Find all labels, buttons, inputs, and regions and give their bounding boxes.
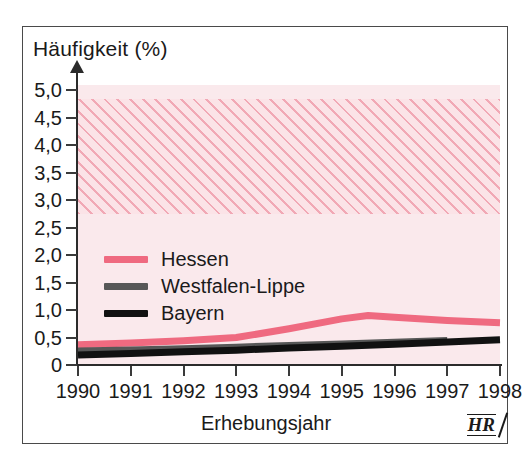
y-axis-title: Häufigkeit (%): [33, 37, 168, 61]
x-axis-tick: [235, 366, 237, 376]
legend-swatch-icon: [104, 283, 148, 290]
y-axis-tick-label: 1,5: [0, 271, 62, 294]
x-axis-tick: [341, 366, 343, 376]
legend-label: Hessen: [161, 248, 229, 271]
y-axis-tick-label: 5,0: [0, 79, 62, 102]
x-axis-tick-label: 1997: [425, 380, 470, 403]
source-logo: HR: [467, 414, 496, 436]
x-axis-tick-label: 1996: [372, 380, 417, 403]
x-axis-tick-label: 1993: [214, 380, 259, 403]
x-axis-tick-label: 1994: [267, 380, 312, 403]
y-axis-tick: [66, 227, 77, 229]
x-axis-tick-label: 1990: [56, 380, 101, 403]
legend-item-hessen: Hessen: [104, 246, 305, 273]
legend-label: Westfalen-Lippe: [161, 275, 305, 298]
legend-item-bayern: Bayern: [104, 300, 305, 327]
x-axis-tick: [394, 366, 396, 376]
x-axis-tick: [288, 366, 290, 376]
y-axis-tick-label: 2,5: [0, 216, 62, 239]
y-axis-tick: [66, 364, 77, 366]
y-axis-tick: [66, 199, 77, 201]
legend-label: Bayern: [161, 302, 224, 325]
y-axis-tick-label: 2,0: [0, 244, 62, 267]
x-axis-tick: [499, 366, 501, 376]
y-axis-tick: [66, 89, 77, 91]
y-axis-line: [76, 68, 78, 366]
y-axis-tick: [66, 172, 77, 174]
y-axis-tick-label: 3,0: [0, 189, 62, 212]
y-axis-tick: [66, 144, 77, 146]
x-axis-tick-label: 1992: [161, 380, 206, 403]
y-axis-tick: [66, 282, 77, 284]
y-axis-tick: [66, 337, 77, 339]
y-axis-tick-label: 0,5: [0, 326, 62, 349]
y-axis-arrow-icon: [70, 60, 84, 73]
x-axis-tick: [130, 366, 132, 376]
y-axis-tick: [66, 117, 77, 119]
x-axis-tick-label: 1995: [320, 380, 365, 403]
y-axis-tick-label: 0: [0, 354, 62, 377]
x-axis-tick: [183, 366, 185, 376]
legend-item-westfalen-lippe: Westfalen-Lippe: [104, 273, 305, 300]
y-axis-tick: [66, 309, 77, 311]
x-axis-tick-label: 1998: [478, 380, 523, 403]
y-axis-tick-label: 4,5: [0, 106, 62, 129]
legend-swatch-icon: [104, 310, 148, 317]
legend: Hessen Westfalen-Lippe Bayern: [104, 246, 305, 327]
y-axis-tick-label: 1,0: [0, 299, 62, 322]
chart-figure: Häufigkeit (%) 00,51,01,52,02,53,03,54,0…: [0, 0, 532, 469]
y-axis-tick: [66, 254, 77, 256]
x-axis-tick: [77, 366, 79, 376]
x-axis-tick: [446, 366, 448, 376]
x-axis-title: Erhebungsjahr: [0, 412, 532, 435]
y-axis-tick-label: 3,5: [0, 161, 62, 184]
y-axis-tick-label: 4,0: [0, 134, 62, 157]
x-axis-tick-label: 1991: [109, 380, 154, 403]
legend-swatch-icon: [104, 256, 148, 263]
